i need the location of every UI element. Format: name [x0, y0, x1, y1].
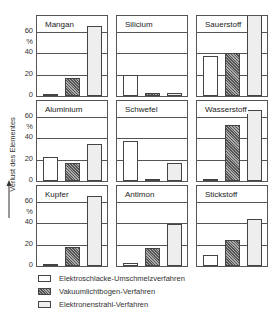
y-tick-label: 0 — [19, 175, 33, 184]
legend-item-eb: Elektronenstrahl-Verfahren — [38, 300, 148, 309]
bar-eb — [167, 93, 182, 96]
bar-esu — [43, 264, 58, 266]
legend-swatch-dotted — [38, 301, 51, 308]
gridline — [37, 117, 107, 118]
gridline — [197, 202, 267, 203]
y-tick-label: 60 — [19, 196, 33, 205]
bar-esu — [123, 263, 138, 266]
panel-aluminium: Aluminium — [36, 100, 108, 182]
bar-var — [225, 125, 240, 181]
panel-kupfer: Kupfer — [36, 185, 108, 267]
gridline — [117, 138, 187, 139]
panel-stickstoff: Stickstoff — [196, 185, 268, 267]
gridline — [117, 117, 187, 118]
bar-var — [65, 78, 80, 96]
panel-wasserstoff: Wasserstoff — [196, 100, 268, 182]
panel-silicium: Silicium — [116, 15, 188, 97]
panel-title: Silicium — [124, 20, 154, 29]
panel-antimon: Antimon — [116, 185, 188, 267]
panel-title: Mangan — [44, 20, 75, 29]
legend-item-var: Vakuumlichtbogen-Verfahren — [38, 287, 155, 296]
gridline — [37, 138, 107, 139]
panel-title: Sauerstoff — [204, 20, 242, 29]
panel-title: Stickstoff — [204, 190, 238, 199]
bar-var — [145, 248, 160, 266]
y-tick-label: 60 — [19, 111, 33, 120]
bar-esu — [203, 179, 218, 181]
legend-label: Elektronenstrahl-Verfahren — [59, 300, 148, 309]
panel-mangan: Mangan — [36, 15, 108, 97]
y-unit-label: % — [19, 122, 33, 131]
y-unit-label: % — [19, 37, 33, 46]
up-arrow-icon — [5, 180, 13, 220]
y-unit-label: % — [19, 207, 33, 216]
bar-var — [145, 93, 160, 96]
bar-esu — [123, 75, 138, 96]
bar-var — [65, 163, 80, 181]
bar-eb — [247, 219, 262, 266]
bar-var — [225, 240, 240, 266]
gridline — [117, 202, 187, 203]
bar-eb — [247, 15, 262, 96]
bar-var — [65, 247, 80, 266]
legend-item-esu: Elektroschlacke-Umschmelzverfahren — [38, 274, 185, 283]
y-tick-label: 0 — [19, 90, 33, 99]
panel-title: Wasserstoff — [204, 105, 248, 114]
y-tick-label: 20 — [19, 239, 33, 248]
legend-swatch-white — [38, 275, 51, 282]
panel-title: Schwefel — [124, 105, 158, 114]
y-tick-label: 40 — [19, 217, 33, 226]
bar-esu — [43, 94, 58, 96]
bar-eb — [247, 110, 262, 181]
panel-title: Kupfer — [44, 190, 70, 199]
bar-var — [145, 179, 160, 181]
y-tick-label: 40 — [19, 132, 33, 141]
panel-title: Aluminium — [44, 105, 83, 114]
bar-eb — [167, 224, 182, 266]
y-tick-label: 0 — [19, 260, 33, 269]
bar-eb — [87, 26, 102, 96]
bar-esu — [203, 255, 218, 266]
gridline — [117, 32, 187, 33]
y-tick-label: 20 — [19, 154, 33, 163]
y-tick-label: 20 — [19, 69, 33, 78]
bar-esu — [203, 56, 218, 96]
bar-eb — [87, 196, 102, 266]
gridline — [117, 53, 187, 54]
bar-esu — [123, 141, 138, 181]
legend-label: Vakuumlichtbogen-Verfahren — [59, 287, 155, 296]
bar-esu — [43, 157, 58, 181]
bar-eb — [167, 163, 182, 181]
legend-label: Elektroschlacke-Umschmelzverfahren — [59, 274, 185, 283]
panel-schwefel: Schwefel — [116, 100, 188, 182]
panel-title: Antimon — [124, 190, 155, 199]
y-tick-label: 60 — [19, 26, 33, 35]
y-tick-label: 40 — [19, 47, 33, 56]
bar-eb — [87, 144, 102, 181]
legend-swatch-hatched — [38, 288, 51, 295]
bar-var — [225, 53, 240, 96]
panel-sauerstoff: Sauerstoff — [196, 15, 268, 97]
